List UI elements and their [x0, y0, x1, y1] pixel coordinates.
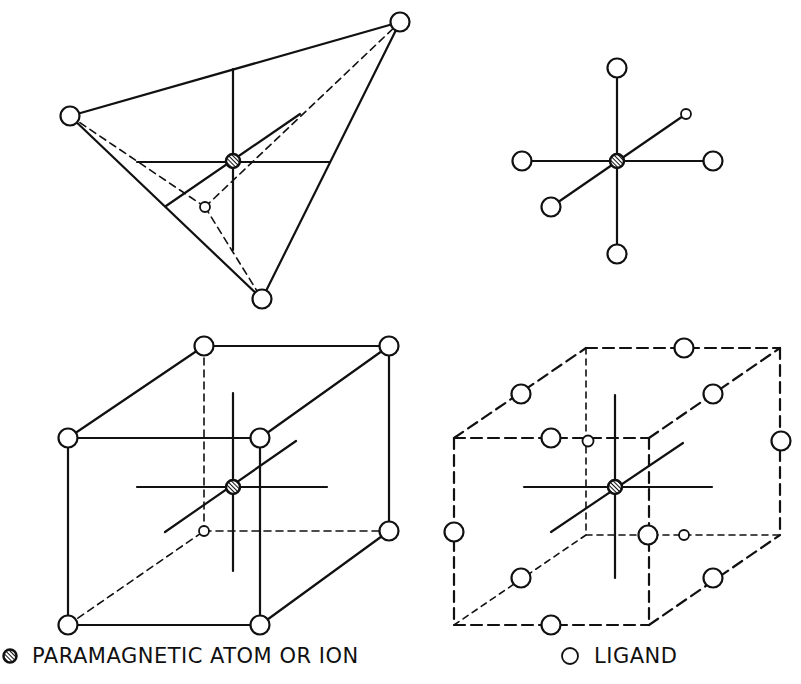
- tetrahedral-panel: [61, 13, 410, 309]
- ligand: [199, 526, 209, 536]
- paramagnetic-atom: [226, 154, 240, 168]
- ligand: [59, 429, 78, 448]
- ligand: [639, 526, 658, 545]
- ligand: [512, 569, 531, 588]
- cuboctahedral-panel: [445, 339, 791, 635]
- paramagnetic-atom: [608, 480, 622, 494]
- ligand: [380, 337, 399, 356]
- ligand: [608, 59, 627, 78]
- ligand: [59, 616, 78, 635]
- ligand: [251, 429, 270, 448]
- ligand: [391, 13, 410, 32]
- paramagnetic-atom: [610, 154, 624, 168]
- octahedral-panel: [513, 59, 723, 264]
- tetra-edge: [70, 22, 400, 116]
- ligand: [542, 198, 561, 217]
- ligand: [681, 109, 691, 119]
- ligand: [542, 429, 561, 448]
- ligand: [542, 616, 561, 635]
- ligand: [704, 569, 723, 588]
- ligand: [251, 616, 270, 635]
- ligand: [61, 107, 80, 126]
- ligand: [512, 385, 531, 404]
- ligand: [513, 152, 532, 171]
- ligand: [380, 522, 399, 541]
- ligand: [675, 339, 694, 358]
- hatched-circle-icon: [2, 648, 18, 664]
- ligand: [200, 202, 210, 212]
- ligand: [608, 245, 627, 264]
- ligand: [704, 385, 723, 404]
- legend-ligand-label: LIGAND: [594, 644, 677, 668]
- tetra-edge: [262, 22, 400, 299]
- ligand: [583, 436, 594, 447]
- legend-atom-label: PARAMAGNETIC ATOM OR ION: [32, 644, 359, 668]
- ligand: [445, 523, 464, 542]
- ligand: [253, 290, 272, 309]
- coordination-diagram: [0, 0, 801, 684]
- cubic-panel: [59, 337, 399, 635]
- open-circle-icon: [560, 646, 580, 666]
- ligand: [195, 337, 214, 356]
- ligand: [679, 530, 689, 540]
- legend-ligand: LIGAND: [560, 644, 677, 668]
- ligand: [704, 152, 723, 171]
- legend-atom: PARAMAGNETIC ATOM OR ION: [2, 644, 359, 668]
- ligand: [772, 432, 791, 451]
- paramagnetic-atom: [226, 480, 240, 494]
